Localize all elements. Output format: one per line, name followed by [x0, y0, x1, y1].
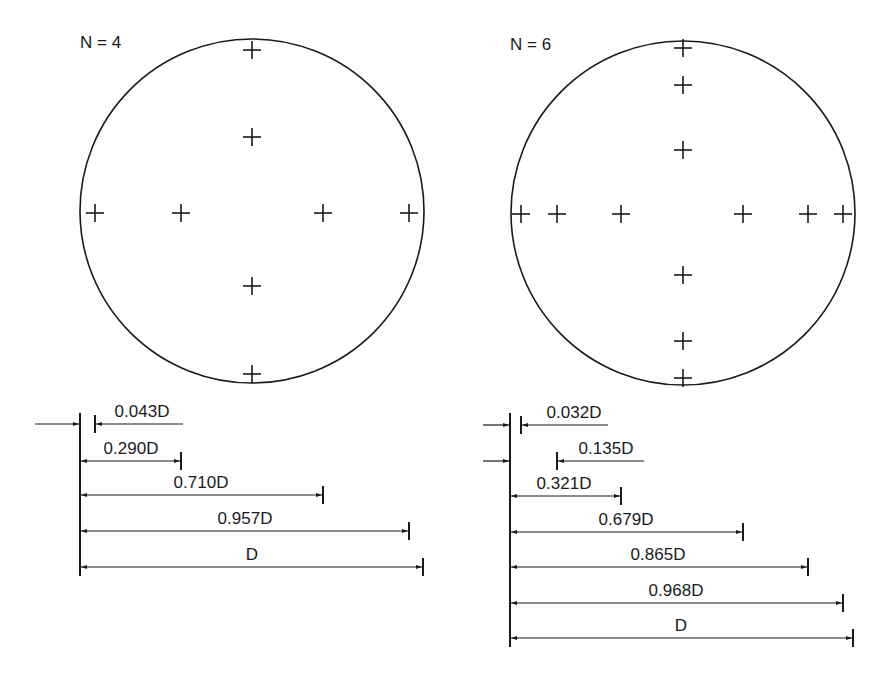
dim-label-0-679D: 0.679D — [599, 511, 654, 528]
traverse-point-cross-icon — [243, 128, 261, 146]
panel-title-n6: N = 6 — [510, 36, 551, 53]
traverse-point-cross-icon — [172, 204, 190, 222]
traverse-point-cross-icon — [674, 76, 692, 94]
traverse-point-cross-icon — [674, 332, 692, 350]
traverse-point-cross-icon — [314, 204, 332, 222]
panel-title-n4: N = 4 — [80, 34, 121, 51]
traverse-point-cross-icon — [674, 141, 692, 159]
traverse-point-cross-icon — [674, 266, 692, 284]
dim-label-0-032D: 0.032D — [547, 404, 602, 421]
dim-label-0-321D: 0.321D — [537, 475, 592, 492]
dim-label-D-left: D — [246, 546, 258, 563]
dim-label-0-865D: 0.865D — [631, 546, 686, 563]
dim-label-0-957D: 0.957D — [218, 510, 273, 527]
traverse-point-cross-icon — [400, 204, 418, 222]
dim-label-0-710D: 0.710D — [174, 474, 229, 491]
dim-label-0-135D: 0.135D — [579, 440, 634, 457]
traverse-point-cross-icon — [612, 205, 630, 223]
traverse-point-cross-icon — [548, 205, 566, 223]
dim-label-0-968D: 0.968D — [649, 582, 704, 599]
traverse-point-cross-icon — [243, 41, 261, 59]
traverse-point-cross-icon — [512, 205, 530, 223]
traverse-point-cross-icon — [243, 277, 261, 295]
traverse-point-cross-icon — [86, 204, 104, 222]
traverse-point-cross-icon — [799, 205, 817, 223]
dim-label-0-043D: 0.043D — [115, 403, 170, 420]
diagram-canvas: N = 4 N = 6 0.043D 0.290D 0.710D 0.957D … — [0, 0, 887, 676]
traverse-point-cross-icon — [734, 205, 752, 223]
traverse-points-diagram — [0, 0, 887, 676]
traverse-point-cross-icon — [243, 365, 261, 383]
dim-label-D-right: D — [675, 617, 687, 634]
panel-n4 — [35, 39, 424, 576]
duct-circle — [80, 39, 424, 383]
traverse-point-cross-icon — [834, 205, 852, 223]
dim-label-0-290D: 0.290D — [104, 440, 159, 457]
